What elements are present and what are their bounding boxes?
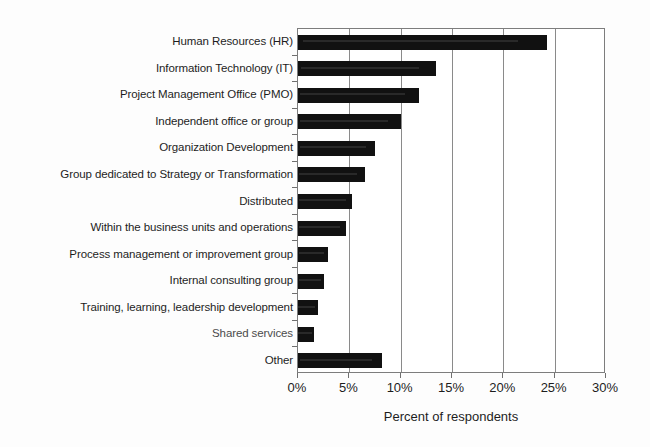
value-tick: [348, 373, 349, 378]
category-label: Within the business units and operations: [91, 221, 293, 233]
category-label: Information Technology (IT): [156, 62, 293, 74]
bar: [298, 194, 352, 209]
gridline-20: [503, 29, 504, 372]
bar: [298, 221, 346, 236]
value-tick-label: 30%: [575, 380, 635, 395]
bar: [298, 35, 547, 50]
bar: [298, 247, 328, 262]
bar: [298, 327, 314, 342]
value-tick: [451, 373, 452, 378]
category-label: Distributed: [239, 195, 293, 207]
x-axis-title: Percent of respondents: [297, 409, 605, 424]
category-label: Process management or improvement group: [69, 248, 293, 260]
value-tick: [554, 373, 555, 378]
value-tick: [502, 373, 503, 378]
category-label: Shared services: [212, 327, 293, 339]
value-tick: [605, 373, 606, 378]
bar: [298, 114, 401, 129]
gridline-25: [555, 29, 556, 372]
bar: [298, 167, 365, 182]
gridline-15: [452, 29, 453, 372]
chart-figure: Human Resources (HR)Information Technolo…: [0, 0, 650, 447]
gridline-10: [401, 29, 402, 372]
bar: [298, 141, 375, 156]
category-label: Independent office or group: [155, 115, 293, 127]
value-tick: [297, 373, 298, 378]
bar: [298, 274, 324, 289]
category-label: Training, learning, leadership developme…: [80, 301, 293, 313]
bar: [298, 353, 382, 368]
category-label: Other: [265, 354, 293, 366]
bar: [298, 61, 436, 76]
category-label: Human Resources (HR): [172, 35, 293, 47]
bar: [298, 88, 419, 103]
plot-area: [297, 28, 605, 373]
category-label: Organization Development: [159, 141, 293, 153]
category-label: Group dedicated to Strategy or Transform…: [60, 168, 293, 180]
bar: [298, 300, 318, 315]
category-label: Internal consulting group: [170, 274, 293, 286]
category-label: Project Management Office (PMO): [120, 88, 293, 100]
value-tick: [400, 373, 401, 378]
